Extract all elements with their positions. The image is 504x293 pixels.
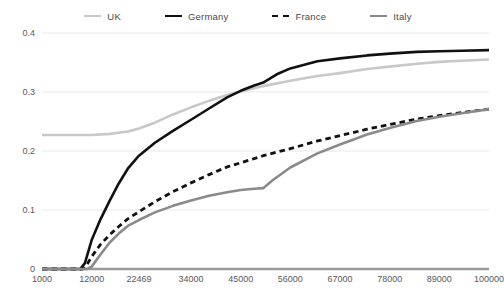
x-tick-label: 12000 (79, 274, 104, 284)
x-tick-label: 56000 (278, 274, 303, 284)
x-tick-label: 100000 (474, 274, 504, 284)
x-tick-label: 22469 (126, 274, 151, 284)
y-tick-label: 0.4 (0, 28, 35, 38)
x-tick-label: 1000 (32, 274, 52, 284)
series-line-germany (42, 50, 489, 269)
y-tick-label: 0.3 (0, 87, 35, 97)
x-tick-label: 89000 (427, 274, 452, 284)
y-tick-label: 0 (0, 264, 35, 274)
x-tick-label: 45000 (228, 274, 253, 284)
x-tick-label: 78000 (377, 274, 402, 284)
series-line-uk (42, 60, 489, 136)
y-tick-label: 0.1 (0, 205, 35, 215)
x-tick-label: 34000 (178, 274, 203, 284)
y-tick-label: 0.2 (0, 146, 35, 156)
x-tick-label: 67000 (327, 274, 352, 284)
